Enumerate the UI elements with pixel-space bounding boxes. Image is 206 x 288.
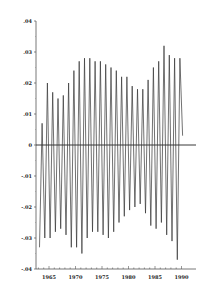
- chart-area: .04.03.02.010-.01-.02-.03-.0419651970197…: [0, 0, 206, 288]
- y-tick-label: .02: [23, 80, 32, 86]
- y-tick-label: 0: [29, 142, 33, 148]
- y-tick-label: .01: [23, 111, 32, 117]
- x-tick-label: 1980: [122, 274, 136, 280]
- y-tick-label: -.04: [21, 266, 32, 272]
- x-tick-label: 1985: [148, 274, 162, 280]
- y-tick-label: -.01: [21, 173, 32, 179]
- y-tick-label: -.03: [21, 235, 32, 241]
- data-line: [40, 46, 183, 260]
- line-chart: .04.03.02.010-.01-.02-.03-.0419651970197…: [0, 0, 206, 288]
- x-tick-label: 1970: [69, 274, 83, 280]
- x-tick-label: 1965: [42, 274, 56, 280]
- x-tick-label: 1975: [95, 274, 109, 280]
- y-tick-label: .03: [23, 49, 32, 55]
- y-tick-label: -.02: [21, 204, 32, 210]
- x-tick-label: 1990: [175, 274, 189, 280]
- y-tick-label: .04: [23, 18, 32, 24]
